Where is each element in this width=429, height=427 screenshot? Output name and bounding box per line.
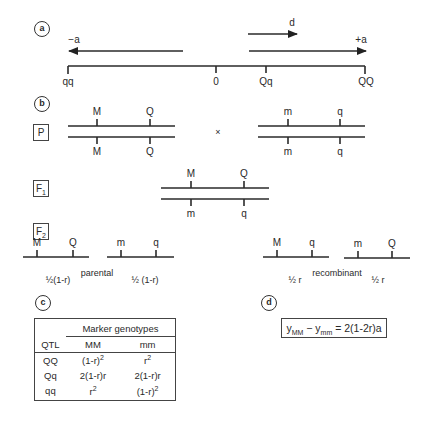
minus-a-label: −a [68, 35, 79, 45]
parent2-chromosomes [258, 119, 365, 144]
allele-label: q [153, 238, 159, 248]
panel-d-label: d [261, 295, 277, 311]
allele-label: M [33, 238, 41, 248]
allele-label: Q [146, 107, 154, 117]
panel-b-label: b [34, 96, 50, 112]
allele-label: m [284, 147, 292, 157]
f1-chromosomes [161, 181, 269, 206]
allele-label: M [93, 107, 101, 117]
qtl-cell: QQ [35, 353, 66, 369]
gamete-frequency: ½ (1-r) [132, 275, 159, 285]
table-row: qq r2 (1-r)2 [35, 383, 176, 401]
axis-tick-Qq: Qq [259, 77, 272, 87]
qtl-cell: Qq [35, 368, 66, 383]
allele-label: q [337, 147, 343, 157]
allele-label: q [337, 107, 343, 117]
cross-symbol: × [215, 127, 220, 137]
allele-label: q [309, 238, 315, 248]
allele-label: m [354, 239, 362, 249]
generation-P-box: P [33, 124, 49, 141]
marker-genotypes-header: Marker genotypes [66, 319, 176, 337]
generation-F1-box: F1 [33, 180, 49, 197]
d-label: d [289, 18, 295, 28]
gamete-frequency: ½(1-r) [46, 275, 71, 285]
marker-difference-formula: yMM − ymm = 2(1-2r)a [281, 318, 387, 338]
gamete-frequency: ½ r [371, 275, 384, 285]
mm-upper-cell: 2(1-r)r [66, 368, 120, 383]
allele-label: m [187, 209, 195, 219]
axis-tick-QQ: QQ [358, 77, 374, 87]
panel-a-label: a [34, 21, 50, 37]
qtl-cell: qq [35, 383, 66, 401]
mm-lower-cell: (1-r)2 [120, 383, 175, 401]
f2-gamete-chromosomes [23, 250, 410, 258]
allele-label: Q [240, 169, 248, 179]
mm-upper-cell: r2 [66, 383, 120, 401]
allele-label: M [273, 238, 281, 248]
allele-label: M [187, 169, 195, 179]
allele-label: m [284, 107, 292, 117]
column-header: MM [66, 337, 120, 353]
gamete-frequency: ½ r [288, 275, 301, 285]
column-header: mm [120, 337, 175, 353]
table-row: Qq 2(1-r)r 2(1-r)r [35, 368, 176, 383]
axis-tick-qq: qq [62, 77, 73, 87]
table-row: QQ (1-r)2 r2 [35, 353, 176, 369]
mm-upper-cell: (1-r)2 [66, 353, 120, 369]
recombinant-label: recombinant [312, 268, 362, 278]
mm-lower-cell: r2 [120, 353, 175, 369]
genotype-frequency-table: Marker genotypes QTL MM mm QQ (1-r)2 r2 … [34, 318, 176, 401]
allele-label: Q [146, 147, 154, 157]
plus-a-label: +a [355, 35, 366, 45]
column-header: QTL [35, 337, 66, 353]
axis-tick-zero: 0 [213, 77, 219, 87]
allele-label: Q [388, 239, 396, 249]
allele-label: m [117, 238, 125, 248]
allele-label: M [93, 147, 101, 157]
mm-lower-cell: 2(1-r)r [120, 368, 175, 383]
allele-label: q [241, 209, 247, 219]
parental-label: parental [81, 268, 114, 278]
allele-label: Q [69, 238, 77, 248]
panel-c-label: c [35, 295, 51, 311]
parent1-chromosomes [68, 119, 175, 144]
